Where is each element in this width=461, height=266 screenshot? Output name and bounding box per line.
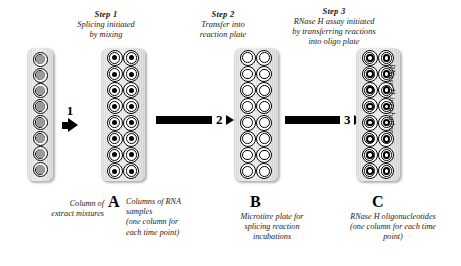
well-row: [239, 115, 272, 131]
step-2-title: Step 2: [173, 9, 273, 19]
well-dot: [123, 82, 139, 98]
step-1-title: Step 1: [46, 9, 166, 19]
well-core-ring: [383, 70, 391, 78]
step-3-heading: Step 3 RNase H assay initiated by transf…: [264, 6, 404, 48]
well-gray: [33, 52, 48, 67]
well-row: [239, 50, 272, 66]
well-ring: [362, 98, 378, 114]
well-empty: [240, 147, 256, 163]
well-row: [106, 147, 139, 163]
well-dot: [123, 131, 139, 147]
arrow-shaft: [156, 116, 212, 124]
well-core-ring: [383, 135, 391, 143]
well-core-ring: [383, 167, 391, 175]
well-ring: [378, 163, 394, 179]
well-row: [106, 115, 139, 131]
well-empty: [240, 98, 256, 114]
plate-extract-strip: [27, 48, 53, 181]
well-row: [106, 163, 139, 179]
arrow-head-icon: [226, 115, 234, 125]
step-2-line-2: reaction plate: [173, 30, 273, 40]
well-dot: [107, 50, 123, 66]
step-3-line-2: by transferring reactions: [264, 27, 404, 37]
well-core-dot: [112, 169, 117, 174]
well-ring: [362, 163, 378, 179]
well-dot: [123, 147, 139, 163]
well-gray: [33, 83, 48, 98]
well-dot: [107, 163, 123, 179]
well-core-ring: [366, 167, 374, 175]
well-gray: [33, 115, 48, 130]
well-core-gray: [36, 102, 45, 111]
well-row: [33, 146, 48, 162]
workflow-diagram: Step 1 Splicing initiated by mixing Step…: [0, 0, 461, 266]
well-ring: [362, 131, 378, 147]
well-core-dot: [129, 72, 134, 77]
caption-extract-strip: Column of extract mixtures: [12, 199, 104, 219]
caption-line: RNase H oligonucleotides: [327, 212, 459, 222]
well-core-dot: [129, 169, 134, 174]
well-core-dot: [129, 88, 134, 93]
well-dot: [123, 163, 139, 179]
well-core-ring: [366, 103, 374, 111]
arrow-head-icon: [68, 118, 78, 132]
well-dot: [107, 98, 123, 114]
caption-line: Microtitre plate for: [207, 212, 337, 222]
well-core-dot: [112, 72, 117, 77]
well-empty: [256, 66, 272, 82]
well-empty: [256, 147, 272, 163]
step-1-line-2: by mixing: [46, 30, 166, 40]
well-core-dot: [112, 104, 117, 109]
well-row: [33, 51, 48, 67]
well-core-dot: [112, 120, 117, 125]
well-row: [239, 147, 272, 163]
well-empty: [240, 131, 256, 147]
well-empty: [256, 50, 272, 66]
well-empty: [240, 66, 256, 82]
well-dot: [107, 131, 123, 147]
well-ring: [362, 82, 378, 98]
caption-line: incubations: [207, 232, 337, 242]
arrow-step-2: 2: [156, 113, 234, 126]
well-dot: [123, 115, 139, 131]
well-ring: [362, 66, 378, 82]
well-core-dot: [129, 55, 134, 60]
well-empty: [256, 115, 272, 131]
well-empty: [256, 131, 272, 147]
step-1-line-1: Splicing initiated: [46, 20, 166, 30]
well-dot: [123, 50, 139, 66]
well-row: [239, 163, 272, 179]
step-2-line-1: Transfer into: [173, 20, 273, 30]
well-core-ring: [366, 86, 374, 94]
well-core-ring: [383, 54, 391, 62]
well-core-gray: [36, 86, 45, 95]
well-gray: [33, 162, 48, 177]
well-ring: [362, 147, 378, 163]
well-core-ring: [366, 70, 374, 78]
well-row: [361, 163, 394, 179]
caption-line: extract mixtures: [12, 209, 104, 219]
well-row: [33, 99, 48, 115]
well-ring: [362, 115, 378, 131]
well-empty: [256, 98, 272, 114]
well-empty: [256, 82, 272, 98]
well-core-dot: [112, 88, 117, 93]
well-row: [361, 147, 394, 163]
caption-plate-b: Microtitre plate for splicing reaction i…: [207, 212, 337, 243]
well-core-gray: [36, 149, 45, 158]
well-core-gray: [36, 71, 45, 80]
step-3-title: Step 3: [264, 6, 404, 16]
plate-b-microtitre: [234, 48, 278, 181]
plate-letter-c: C: [372, 194, 384, 210]
well-gray: [33, 146, 48, 161]
well-ring: [378, 147, 394, 163]
well-row: [239, 66, 272, 82]
well-core-dot: [129, 152, 134, 157]
well-dot: [107, 66, 123, 82]
caption-line: (one column for each time: [327, 222, 459, 232]
plate-letter-b: B: [250, 194, 261, 210]
well-core-dot: [129, 136, 134, 141]
arrow-1-body: [62, 118, 78, 132]
well-empty: [240, 50, 256, 66]
caption-line: Columns of RNA: [126, 197, 222, 207]
